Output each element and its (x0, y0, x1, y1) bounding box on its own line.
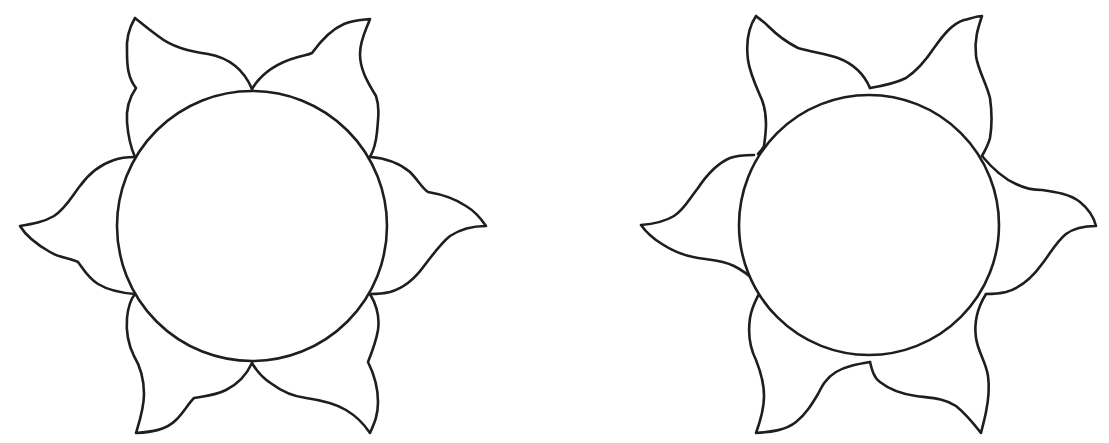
sun-disc-right (739, 95, 999, 355)
sun-left-icon (20, 18, 486, 433)
sun-disc-left (117, 91, 387, 361)
sun-right-icon (641, 16, 1096, 433)
drawing-canvas (0, 0, 1109, 443)
